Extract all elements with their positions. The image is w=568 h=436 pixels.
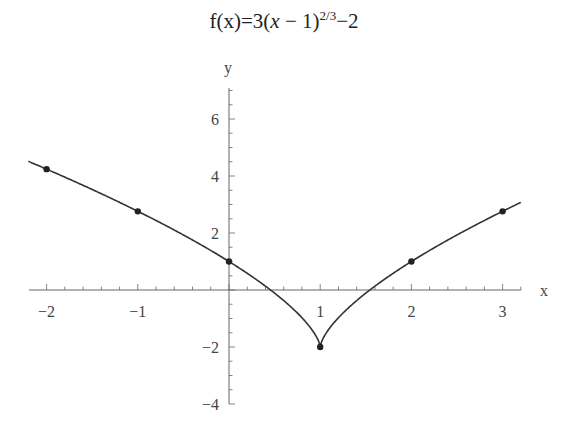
axis-ticks: [47, 91, 521, 405]
y-axis-label: y: [224, 59, 232, 77]
data-point: [317, 344, 323, 350]
x-tick-label: 3: [499, 303, 507, 320]
data-points: [43, 166, 505, 350]
data-point: [226, 258, 232, 264]
x-tick-label: −1: [129, 303, 146, 320]
y-tick-label: 6: [211, 111, 219, 128]
y-tick-label: −2: [202, 339, 219, 356]
y-tick-label: 2: [211, 225, 219, 242]
y-tick-label: 4: [211, 168, 219, 185]
axes: [29, 88, 521, 404]
x-tick-label: 1: [316, 303, 324, 320]
data-point: [43, 166, 49, 172]
tick-labels: −2−1123642−2−4: [38, 111, 507, 413]
data-point: [408, 258, 414, 264]
x-axis-label: x: [540, 282, 548, 299]
chart-plot-area: −2−1123642−2−4 x y: [0, 0, 568, 436]
data-point: [499, 208, 505, 214]
x-tick-label: −2: [38, 303, 55, 320]
function-curve: [28, 161, 520, 347]
y-tick-label: −4: [202, 396, 219, 413]
x-tick-label: 2: [407, 303, 415, 320]
data-point: [135, 208, 141, 214]
